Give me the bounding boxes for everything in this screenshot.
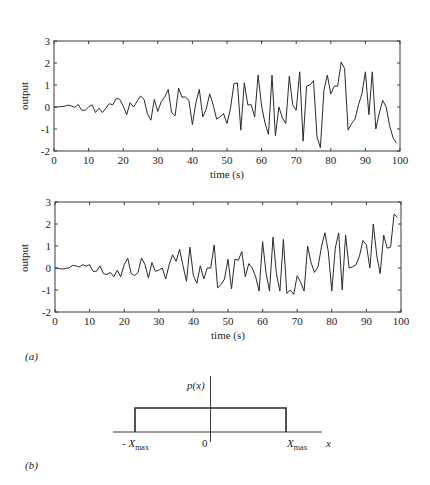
x-tick-label: 20	[119, 315, 131, 327]
x-tick-label: 90	[361, 315, 373, 327]
x-tick-label: 40	[188, 315, 200, 327]
bottom-y-axis-ticks: -2-10123	[42, 196, 401, 318]
top-x-axis-label: time (s)	[210, 168, 244, 181]
figure: 0102030405060708090100 -2-10123 time (s)…	[0, 0, 430, 485]
panel-b-label: (b)	[25, 459, 38, 472]
top-plot-frame	[54, 41, 400, 151]
x-tick-label: 70	[291, 154, 303, 166]
x-tick-label: 0	[51, 154, 57, 166]
y-tick-label: -1	[42, 284, 51, 296]
x-tick-label: 0	[52, 315, 58, 327]
x-tick-label: 60	[256, 154, 268, 166]
y-tick-label: -1	[41, 123, 50, 135]
y-tick-label: 3	[45, 35, 51, 47]
y-tick-label: 1	[45, 79, 51, 91]
top-x-axis-ticks: 0102030405060708090100	[51, 41, 409, 166]
x-tick-label: 30	[153, 315, 165, 327]
x-tick-label: 90	[360, 154, 372, 166]
y-tick-label: 3	[46, 196, 52, 208]
y-tick-label: 2	[46, 218, 52, 230]
x-tick-label: 80	[325, 154, 337, 166]
bottom-output-series-line	[55, 214, 398, 294]
panel-a-label: (a)	[25, 350, 38, 363]
x-tick-label: 70	[292, 315, 304, 327]
x-tick-label: 100	[393, 315, 410, 327]
y-tick-label: 0	[46, 262, 52, 274]
x-tick-label: 10	[83, 154, 95, 166]
top-time-series-plot: 0102030405060708090100 -2-10123 time (s)…	[18, 35, 409, 181]
x-tick-label: 50	[222, 154, 234, 166]
x-tick-label: 100	[392, 154, 409, 166]
x-tick-label: 60	[257, 315, 269, 327]
y-tick-label: 0	[45, 101, 51, 113]
x-tick-label: 10	[84, 315, 96, 327]
pdf-y-axis-label: p(x)	[186, 379, 205, 392]
zero-label: 0	[202, 437, 208, 449]
y-tick-label: -2	[41, 145, 50, 157]
x-tick-label: 40	[187, 154, 199, 166]
bottom-time-series-plot: 0102030405060708090100 -2-10123 time (s)…	[18, 196, 410, 342]
uniform-pdf-diagram: p(x) - Xmax 0 Xmax x	[113, 376, 331, 452]
y-tick-label: 2	[45, 57, 51, 69]
x-tick-label: 30	[152, 154, 164, 166]
pdf-x-axis-label: x	[325, 437, 331, 449]
x-tick-label: 50	[223, 315, 235, 327]
pos-xmax-label: Xmax	[286, 437, 308, 452]
bottom-x-axis-label: time (s)	[211, 329, 245, 342]
x-tick-label: 80	[326, 315, 338, 327]
bottom-plot-frame	[55, 202, 401, 312]
top-y-axis-label: output	[18, 82, 30, 110]
bottom-y-axis-label: output	[18, 244, 30, 272]
y-tick-label: 1	[46, 240, 52, 252]
y-tick-label: -2	[42, 306, 51, 318]
x-tick-label: 20	[118, 154, 130, 166]
neg-xmax-label: - Xmax	[122, 437, 149, 452]
top-output-series-line	[54, 62, 397, 148]
